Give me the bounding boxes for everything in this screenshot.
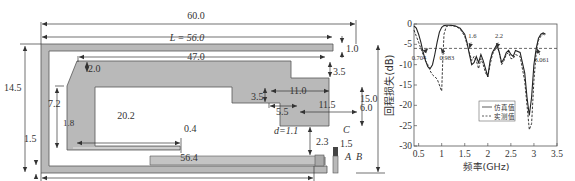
x-tick-label: 1.5 [459, 149, 471, 159]
x-tick-label: 2.5 [505, 149, 517, 159]
dim-inner-strip-thickness: 0.4 [184, 123, 197, 134]
return-loss-chart: 0-5-10-15-20-25-30 0.511.522.533.5 0.704… [383, 19, 563, 172]
dim-total-width: 60.0 [187, 10, 205, 21]
label-point-B: B [356, 151, 362, 162]
annotation-arrow [537, 48, 540, 55]
y-axis-label: 回程损失(dB) [383, 54, 395, 115]
y-tick-label: -30 [399, 141, 412, 151]
figure: 60.0 L = 56.0 1.0 47.0 2.0 3.5 11.0 3.5 … [0, 0, 575, 181]
antenna-geometry: 60.0 L = 56.0 1.0 47.0 2.0 3.5 11.0 3.5 … [4, 10, 385, 181]
dim-left-height: 14.5 [4, 82, 22, 93]
annotation-group: 0.7040.9831.62.23.061 [412, 32, 549, 63]
dim-length-L: L = 56.0 [169, 32, 205, 43]
y-tick-label: -25 [399, 121, 412, 131]
dim-top-gap: 1.0 [346, 43, 359, 54]
dim-inner-top-length: 47.0 [187, 51, 205, 62]
dim-feed-width: 2.3 [316, 136, 329, 147]
y-tick-label: -20 [399, 100, 412, 110]
y-tick-label: -5 [404, 39, 412, 49]
dim-step-width-2: 5.5 [276, 106, 289, 117]
y-tick-label: -10 [399, 60, 412, 70]
label-point-C: C [343, 124, 350, 135]
dim-bottom-strip-height-right: 1.5 [340, 138, 353, 149]
feed-port-C [333, 147, 338, 156]
inner-meander-strip [67, 61, 329, 150]
y-tick-label: -15 [399, 80, 412, 90]
legend-label-simulated: 仿真值 [494, 103, 515, 112]
feed-strip [150, 156, 324, 165]
annotation-label: 0.983 [440, 54, 455, 61]
dim-gap-d: d=1.1 [274, 125, 298, 136]
ground-pad-B [333, 156, 338, 173]
dim-bottom-strip-height: 1.5 [24, 133, 37, 144]
dim-step-width-3: 11.5 [318, 99, 335, 110]
x-axis-label: 频率(GHz) [463, 161, 510, 172]
plot-frame [414, 24, 557, 146]
dim-inner-left-height: 7.2 [48, 98, 61, 109]
x-axis-ticks: 0.511.522.533.5 [413, 143, 564, 159]
dim-bottom-length: 56.4 [180, 152, 198, 163]
x-tick-label: 3.5 [551, 149, 563, 159]
feed-pad-A [315, 155, 324, 166]
dim-inner-strip-length: 20.2 [117, 110, 135, 121]
annotation-arrow [469, 42, 471, 48]
x-tick-label: 0.5 [413, 149, 425, 159]
dim-inner-strip-offset: 1.8 [63, 118, 75, 128]
label-point-A: A [344, 151, 352, 162]
y-tick-label: 0 [407, 19, 412, 29]
annotation-label: 3.061 [534, 56, 549, 63]
dim-step-height-1: 3.5 [333, 66, 346, 77]
legend-label-measured: 实测值 [494, 112, 515, 121]
dim-step-height-3: 6.0 [360, 102, 373, 113]
dim-chamfer-width: 2.0 [88, 63, 101, 74]
annotation-label: 2.2 [495, 32, 503, 39]
x-tick-label: 2 [485, 149, 490, 159]
x-tick-label: 3 [532, 149, 537, 159]
dim-step-width-1: 11.0 [289, 85, 306, 96]
legend: 仿真值 实测值 [479, 101, 515, 121]
annotation-label: 0.704 [412, 54, 427, 61]
x-tick-label: 1 [439, 149, 444, 159]
annotation-label: 1.6 [468, 32, 477, 39]
dim-step-height-2: 3.5 [251, 91, 264, 102]
